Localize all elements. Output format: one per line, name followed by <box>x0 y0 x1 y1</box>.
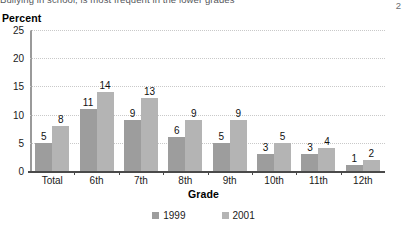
bar-group: 35 <box>252 30 296 171</box>
legend-item-2001[interactable]: 2001 <box>222 210 255 221</box>
bar-group: 913 <box>119 30 163 171</box>
y-axis-title: Percent <box>2 12 41 24</box>
bar-value-label: 6 <box>174 125 180 136</box>
bar-value-label: 11 <box>83 97 93 108</box>
bar-group: 58 <box>30 30 74 171</box>
bar-value-label: 2 <box>369 148 375 159</box>
x-axis-tick-label-8th: 8th <box>163 175 207 186</box>
bar-group: 1114 <box>74 30 118 171</box>
bar-value-label: 4 <box>324 136 330 147</box>
bar-group: 69 <box>163 30 207 171</box>
bar-chart-figure: Bullying in school, is most frequent in … <box>0 0 407 231</box>
bar-value-label: 3 <box>307 142 313 153</box>
bar-value-label: 9 <box>191 108 197 119</box>
bar-value-label: 1 <box>352 153 358 164</box>
legend-label: 2001 <box>233 210 255 221</box>
plot-area: 051015202558Total11146th9137th698th599th… <box>30 30 385 171</box>
legend-swatch-icon <box>152 212 159 219</box>
bar-2001-10th: 5 <box>274 143 291 171</box>
figure-caption-text: Bullying in school, is most frequent in … <box>0 0 407 6</box>
y-axis-tick-label: 10 <box>13 109 24 120</box>
x-axis-tick-label-Total: Total <box>30 175 74 186</box>
bar-value-label: 8 <box>58 114 64 125</box>
bar-value-label: 14 <box>100 80 111 91</box>
page-number: 2 <box>396 0 401 12</box>
bar-2001-8th: 9 <box>185 120 202 171</box>
bar-value-label: 13 <box>144 86 155 97</box>
legend-swatch-icon <box>222 212 229 219</box>
legend-label: 1999 <box>163 210 185 221</box>
bar-group: 12 <box>341 30 385 171</box>
bar-group: 59 <box>208 30 252 171</box>
bar-1999-Total: 5 <box>35 143 52 171</box>
chart-legend: 19992001 <box>0 210 407 221</box>
y-axis-tick-label: 15 <box>13 81 24 92</box>
y-axis-tick-label: 0 <box>18 166 24 177</box>
y-axis-tick-label: 20 <box>13 53 24 64</box>
bar-value-label: 9 <box>235 108 241 119</box>
bar-1999-10th: 3 <box>257 154 274 171</box>
x-axis-tick-label-12th: 12th <box>341 175 385 186</box>
legend-item-1999[interactable]: 1999 <box>152 210 185 221</box>
bar-value-label: 5 <box>280 131 286 142</box>
x-axis-tick-label-11th: 11th <box>296 175 340 186</box>
bar-1999-12th: 1 <box>346 165 363 171</box>
x-axis-tick-label-9th: 9th <box>208 175 252 186</box>
y-axis-tick-label: 25 <box>13 25 24 36</box>
x-axis-tick-label-6th: 6th <box>74 175 118 186</box>
bar-value-label: 9 <box>130 108 136 119</box>
bar-group: 34 <box>296 30 340 171</box>
x-axis-tick-label-10th: 10th <box>252 175 296 186</box>
bar-value-label: 5 <box>218 131 224 142</box>
x-axis-title: Grade <box>0 188 407 200</box>
bar-1999-8th: 6 <box>168 137 185 171</box>
bar-value-label: 3 <box>263 142 269 153</box>
x-axis-tick-label-7th: 7th <box>119 175 163 186</box>
bar-2001-12th: 2 <box>363 160 380 171</box>
bar-1999-7th: 9 <box>124 120 141 171</box>
bar-2001-9th: 9 <box>230 120 247 171</box>
bar-1999-11th: 3 <box>301 154 318 171</box>
bar-1999-9th: 5 <box>213 143 230 171</box>
bar-2001-11th: 4 <box>318 148 335 171</box>
y-axis-tick-label: 5 <box>18 137 24 148</box>
bar-1999-6th: 11 <box>80 109 97 171</box>
bar-2001-6th: 14 <box>97 92 114 171</box>
bar-value-label: 5 <box>41 131 47 142</box>
x-axis-line <box>28 171 385 173</box>
bar-2001-7th: 13 <box>141 98 158 171</box>
figure-caption: Bullying in school, is most frequent in … <box>0 0 407 6</box>
bar-2001-Total: 8 <box>52 126 69 171</box>
